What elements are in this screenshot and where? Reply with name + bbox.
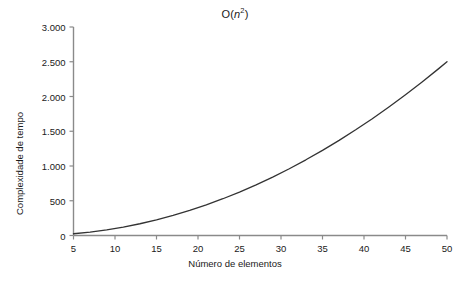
y-tick-label: 0	[0, 230, 66, 241]
x-tick-label: 35	[317, 243, 328, 254]
y-tick-label: 3.000	[0, 22, 66, 33]
data-series-curve	[74, 62, 448, 234]
y-tick-label: 1.000	[0, 161, 66, 172]
x-axis-title: Número de elementos	[0, 258, 470, 269]
y-tick-label: 2.500	[0, 56, 66, 67]
x-tick-label: 30	[276, 243, 287, 254]
x-tick-label: 40	[359, 243, 370, 254]
x-tick-label: 5	[71, 243, 76, 254]
x-tick-label: 50	[442, 243, 453, 254]
y-tick-label: 1.500	[0, 126, 66, 137]
x-tick-label: 25	[234, 243, 245, 254]
chart-figure: O(n2) 05001.0001.5002.0002.5003.000 5101…	[0, 0, 470, 281]
plot-area	[0, 0, 470, 281]
x-tick-label: 45	[400, 243, 411, 254]
x-tick-label: 20	[193, 243, 204, 254]
axis-lines	[74, 27, 448, 236]
y-axis-title: Complexidade de tempo	[14, 112, 25, 215]
y-tick-label: 500	[0, 195, 66, 206]
x-tick-label: 15	[151, 243, 162, 254]
y-tick-label: 2.000	[0, 91, 66, 102]
x-tick-label: 10	[110, 243, 121, 254]
